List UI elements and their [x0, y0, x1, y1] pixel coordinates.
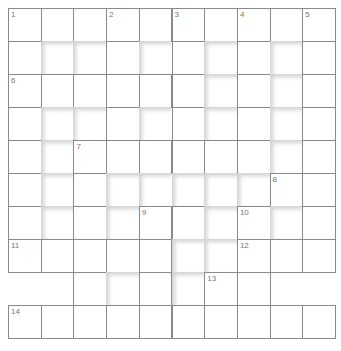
grid-cell[interactable] [172, 140, 206, 174]
grid-cell[interactable] [172, 41, 206, 75]
blocked-cell [172, 173, 205, 206]
grid-cell[interactable] [172, 107, 206, 141]
blocked-cell [172, 239, 205, 272]
grid-cell[interactable]: 4 [237, 8, 271, 42]
grid-cell[interactable] [41, 305, 75, 339]
grid-cell[interactable] [106, 305, 140, 339]
grid-cell[interactable] [302, 239, 336, 273]
grid-cell[interactable] [73, 272, 107, 306]
grid-cell[interactable]: 11 [8, 239, 42, 273]
grid-cell[interactable] [302, 107, 336, 141]
clue-number: 9 [142, 208, 146, 217]
blocked-cell [204, 173, 237, 206]
clue-number: 10 [240, 208, 249, 217]
clue-number: 7 [76, 142, 80, 151]
clue-number: 1 [11, 10, 15, 19]
clue-number: 4 [240, 10, 244, 19]
blocked-cell [270, 107, 303, 140]
grid-cell[interactable]: 14 [8, 305, 42, 339]
grid-cell[interactable] [302, 140, 336, 174]
grid-cell[interactable] [139, 8, 173, 42]
blocked-cell [139, 173, 172, 206]
clue-number: 11 [11, 241, 19, 250]
blocked-cell [270, 41, 303, 74]
grid-cell[interactable] [73, 305, 107, 339]
grid-cell[interactable] [237, 107, 271, 141]
grid-cell[interactable] [204, 140, 238, 174]
grid-cell[interactable]: 12 [237, 239, 271, 273]
grid-cell[interactable] [106, 107, 140, 141]
grid-cell[interactable] [73, 206, 107, 240]
grid-cell[interactable]: 6 [8, 74, 42, 108]
grid-cell[interactable] [41, 239, 75, 273]
grid-cell[interactable] [302, 41, 336, 75]
empty-space [270, 272, 303, 305]
grid-cell[interactable]: 8 [270, 173, 304, 207]
grid-cell[interactable]: 10 [237, 206, 271, 240]
grid-cell[interactable] [237, 272, 271, 306]
grid-cell[interactable] [237, 41, 271, 75]
grid-cell[interactable] [8, 173, 42, 207]
blocked-cell [204, 206, 237, 239]
grid-cell[interactable] [172, 206, 206, 240]
clue-number: 12 [240, 241, 249, 250]
blocked-cell [139, 107, 172, 140]
grid-cell[interactable]: 1 [8, 8, 42, 42]
empty-space [8, 272, 41, 305]
grid-cell[interactable]: 3 [172, 8, 206, 42]
grid-cell[interactable] [270, 305, 304, 339]
grid-cell[interactable] [73, 8, 107, 42]
grid-cell[interactable] [302, 74, 336, 108]
grid-cell[interactable] [270, 8, 304, 42]
grid-cell[interactable]: 9 [139, 206, 173, 240]
grid-cell[interactable] [139, 74, 173, 108]
grid-cell[interactable] [73, 74, 107, 108]
grid-cell[interactable] [237, 74, 271, 108]
blocked-cell [41, 107, 74, 140]
grid-cell[interactable] [41, 8, 75, 42]
grid-cell[interactable] [139, 305, 173, 339]
grid-cell[interactable] [302, 206, 336, 240]
grid-cell[interactable] [73, 239, 107, 273]
blocked-cell [73, 107, 106, 140]
grid-cell[interactable]: 13 [204, 272, 238, 306]
blocked-cell [41, 206, 74, 239]
grid-cell[interactable] [8, 206, 42, 240]
grid-cell[interactable] [204, 305, 238, 339]
grid-cell[interactable] [139, 239, 173, 273]
clue-number: 5 [305, 10, 309, 19]
blocked-cell [106, 206, 139, 239]
grid-cell[interactable] [139, 140, 173, 174]
blocked-cell [73, 41, 106, 74]
blocked-cell [204, 239, 237, 272]
grid-cell[interactable] [41, 74, 75, 108]
grid-cell[interactable] [8, 41, 42, 75]
blocked-cell [270, 206, 303, 239]
clue-number: 14 [11, 307, 20, 316]
clue-number: 3 [175, 10, 179, 19]
grid-cell[interactable] [204, 8, 238, 42]
grid-cell[interactable] [237, 140, 271, 174]
grid-cell[interactable] [237, 305, 271, 339]
grid-cell[interactable] [8, 107, 42, 141]
grid-cell[interactable] [106, 140, 140, 174]
grid-cell[interactable]: 5 [302, 8, 336, 42]
grid-cell[interactable] [172, 305, 206, 339]
crossword-grid: 1234567891011121314 [8, 8, 335, 338]
grid-cell[interactable] [106, 41, 140, 75]
grid-cell[interactable] [302, 305, 336, 339]
blocked-cell [237, 173, 270, 206]
blocked-cell [106, 272, 139, 305]
clue-number: 6 [11, 76, 15, 85]
grid-cell[interactable] [270, 239, 304, 273]
grid-cell[interactable]: 2 [106, 8, 140, 42]
grid-cell[interactable] [106, 74, 140, 108]
grid-cell[interactable] [73, 173, 107, 207]
grid-cell[interactable] [8, 140, 42, 174]
grid-cell[interactable]: 7 [73, 140, 107, 174]
blocked-cell [106, 173, 139, 206]
grid-cell[interactable] [172, 74, 206, 108]
grid-cell[interactable] [139, 272, 173, 306]
grid-cell[interactable] [302, 173, 336, 207]
grid-cell[interactable] [106, 239, 140, 273]
